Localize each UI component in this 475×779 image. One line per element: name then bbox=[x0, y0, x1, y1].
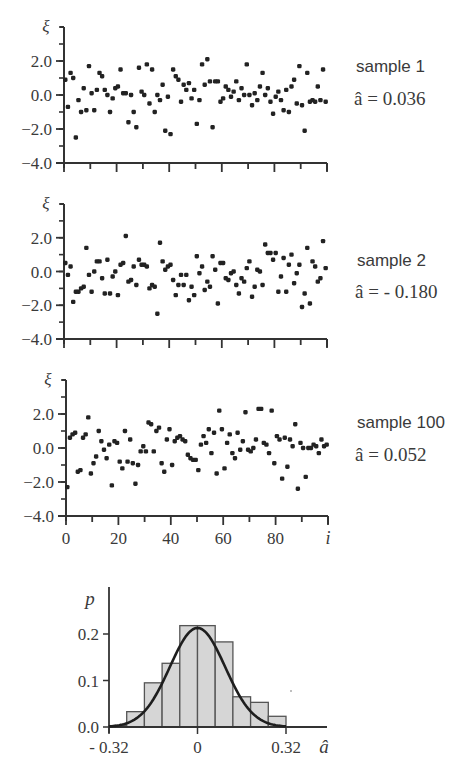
histogram-bar bbox=[215, 642, 233, 727]
y-tick-label: 2.0 bbox=[33, 405, 54, 424]
y-tick-label: −4.0 bbox=[21, 330, 52, 349]
x-tick-label: 0 bbox=[193, 738, 202, 757]
x-tick-label: - 0.32 bbox=[89, 738, 129, 757]
sample-2-label: sample 2 bbox=[357, 251, 426, 270]
x-tick-label: 0 bbox=[62, 529, 71, 548]
histogram-estimate-distribution: 0.00.10.2- 0.3200.32pâ bbox=[78, 587, 329, 757]
data-points bbox=[65, 407, 329, 491]
sample-100-estimate: â = 0.052 bbox=[355, 444, 426, 465]
y-tick-label: 2.0 bbox=[31, 229, 52, 248]
sample-2-estimate: â = - 0.180 bbox=[355, 281, 437, 302]
scatter-plot-sample-2: 2.00.0−2.0−4.0ξ bbox=[21, 194, 328, 349]
sample-100-label: sample 100 bbox=[357, 413, 445, 432]
y-tick-label: −4.0 bbox=[23, 507, 54, 526]
y-tick-label: 0.0 bbox=[78, 718, 99, 737]
x-axis-label: â bbox=[319, 736, 329, 757]
x-tick-label: 20 bbox=[110, 529, 127, 548]
y-tick-label: 0.0 bbox=[31, 86, 52, 105]
histogram-bar bbox=[162, 663, 180, 727]
y-tick-label: 0.0 bbox=[33, 439, 54, 458]
data-points bbox=[63, 57, 328, 140]
y-tick-label: −2.0 bbox=[23, 473, 54, 492]
sample-1-estimate: â = 0.036 bbox=[354, 88, 425, 109]
figure: 2.00.0−2.0−4.0ξ sample 1 â = 0.036 2.00.… bbox=[0, 0, 475, 779]
x-tick-label: 60 bbox=[215, 529, 232, 548]
y-tick-label: −4.0 bbox=[21, 154, 52, 173]
y-axis-label: p bbox=[83, 588, 95, 609]
y-tick-label: −2.0 bbox=[21, 296, 52, 315]
x-tick-label: 80 bbox=[267, 529, 284, 548]
scatter-plot-sample-1: 2.00.0−2.0−4.0ξ bbox=[21, 17, 328, 173]
y-axis-label: ξ bbox=[42, 194, 50, 213]
y-tick-label: 0.1 bbox=[78, 672, 99, 691]
y-axis-label: ξ bbox=[42, 17, 50, 36]
y-tick-label: 0.0 bbox=[31, 263, 52, 282]
y-tick-label: −2.0 bbox=[21, 120, 52, 139]
scatter-plot-sample-100: 2.00.0−2.0−4.0ξ020406080i bbox=[23, 370, 330, 548]
y-tick-label: 2.0 bbox=[31, 52, 52, 71]
y-axis-label: ξ bbox=[44, 370, 52, 389]
data-points bbox=[63, 234, 328, 316]
y-tick-label: 0.2 bbox=[78, 625, 99, 644]
x-tick-label: 0.32 bbox=[271, 738, 301, 757]
sample-1-label: sample 1 bbox=[356, 57, 425, 76]
histogram-bars bbox=[109, 626, 286, 727]
x-tick-label: 40 bbox=[162, 529, 179, 548]
x-axis-label: i bbox=[325, 528, 330, 548]
